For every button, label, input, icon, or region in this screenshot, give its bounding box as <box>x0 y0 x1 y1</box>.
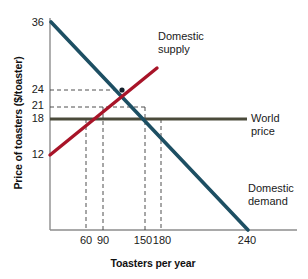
y-tick-label-36: 36 <box>20 16 44 28</box>
y-tick-label-12: 12 <box>20 148 44 160</box>
domestic-demand-label: Domestic demand <box>248 182 294 207</box>
x-tick-label-240: 240 <box>232 234 262 246</box>
y-tick-label-21: 21 <box>20 99 44 111</box>
y-tick-label-24: 24 <box>20 83 44 95</box>
domestic-supply-line <box>50 68 157 155</box>
domestic-demand-label-line2: demand <box>248 195 294 208</box>
domestic-supply-label: Domestic supply <box>158 30 204 55</box>
equilibrium-point-marker <box>119 87 124 92</box>
y-tick-label-18: 18 <box>20 112 44 124</box>
x-tick-label-90: 90 <box>88 234 118 246</box>
x-tick-label-180: 180 <box>147 234 177 246</box>
domestic-demand-line <box>51 22 248 230</box>
domestic-supply-label-line1: Domestic <box>158 30 204 43</box>
chart-figure: Price of toasters ($/toaster) Toasters p… <box>0 0 308 279</box>
world-price-label-line2: price <box>251 125 280 138</box>
world-price-label: World price <box>251 112 280 137</box>
world-price-label-line1: World <box>251 112 280 125</box>
domestic-demand-label-line1: Domestic <box>248 182 294 195</box>
x-axis-title: Toasters per year <box>48 257 258 269</box>
domestic-supply-label-line2: supply <box>158 43 204 56</box>
